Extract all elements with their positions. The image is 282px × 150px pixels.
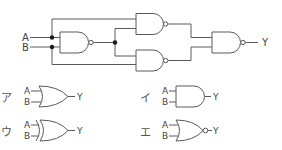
input-label-b: B — [24, 131, 30, 141]
output-label-y: Y — [76, 126, 83, 136]
nor-gate-bubble — [203, 128, 208, 133]
nand-gate-1 — [60, 32, 89, 53]
or-gate — [39, 86, 68, 107]
and-gate — [176, 86, 205, 107]
junction-g1 — [113, 40, 117, 44]
output-label-y: Y — [76, 92, 83, 102]
output-label-y: Y — [212, 126, 219, 136]
input-label-a: A — [162, 120, 169, 130]
nand-gate-4 — [212, 32, 241, 53]
output-label-y: Y — [212, 92, 219, 102]
nor-gate — [176, 120, 203, 141]
option-a-or: ア A B Y — [1, 86, 83, 107]
input-label-a: A — [24, 86, 31, 96]
output-label-y: Y — [261, 37, 269, 48]
main-circuit: A B Y — [22, 14, 269, 72]
xor-extra-arc — [36, 120, 40, 141]
nand-gate-2-bubble — [164, 22, 168, 26]
option-marker: ウ — [1, 126, 12, 139]
input-label-b: B — [162, 97, 168, 107]
option-c-xor: ウ A B Y — [1, 120, 83, 141]
nand-gate-2 — [136, 14, 164, 35]
input-label-a: A — [24, 120, 31, 130]
wire-g1-split — [115, 29, 136, 57]
option-b-and: イ A B Y — [140, 86, 219, 107]
input-label-b: B — [22, 42, 29, 53]
option-marker: イ — [140, 92, 151, 105]
logic-circuit-diagram: A B Y ア A B — [0, 0, 282, 150]
wire-g2-to-g4 — [168, 24, 212, 38]
input-label-a: A — [162, 86, 169, 96]
option-marker: エ — [140, 126, 151, 139]
nand-gate-1-bubble — [89, 40, 93, 44]
input-label-b: B — [24, 97, 30, 107]
nand-gate-3-bubble — [164, 58, 168, 62]
option-marker: ア — [1, 92, 12, 105]
xor-gate — [40, 120, 68, 141]
nand-gate-4-bubble — [241, 40, 245, 44]
input-label-b: B — [162, 131, 168, 141]
nand-gate-3 — [136, 50, 164, 71]
junction-b — [50, 45, 54, 49]
junction-a — [50, 35, 54, 39]
wire-g3-to-g4 — [168, 47, 212, 61]
option-d-nor: エ A B Y — [140, 120, 219, 141]
